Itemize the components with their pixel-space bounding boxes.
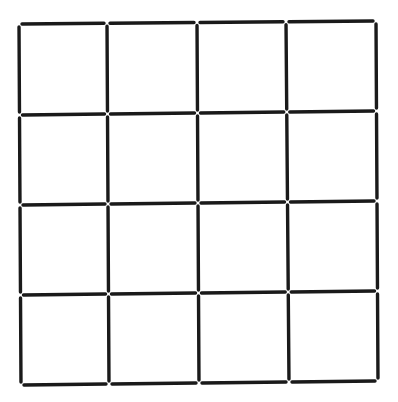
horizontal-stick — [292, 381, 375, 382]
horizontal-stick — [290, 111, 374, 112]
horizontal-stick — [22, 23, 104, 24]
horizontal-stick — [202, 382, 286, 383]
horizontal-stick — [201, 292, 285, 293]
vertical-stick — [288, 295, 289, 379]
horizontal-stick — [112, 383, 196, 384]
horizontal-stick — [289, 21, 373, 22]
horizontal-stick — [200, 22, 283, 23]
horizontal-stick — [111, 203, 195, 204]
horizontal-stick — [23, 294, 105, 295]
horizontal-stick — [24, 384, 106, 385]
grid-canvas — [0, 0, 398, 402]
horizontal-stick — [291, 291, 374, 292]
horizontal-stick — [110, 23, 194, 24]
vertical-stick — [287, 115, 288, 199]
horizontal-stick — [111, 293, 195, 294]
horizontal-stick — [200, 112, 283, 113]
horizontal-stick — [110, 113, 194, 114]
horizontal-stick — [23, 204, 105, 205]
vertical-stick — [288, 205, 289, 289]
horizontal-stick — [22, 114, 104, 115]
matchstick-grid-diagram — [0, 0, 398, 402]
vertical-stick — [286, 25, 287, 109]
horizontal-stick — [201, 202, 285, 203]
horizontal-stick — [290, 201, 374, 202]
